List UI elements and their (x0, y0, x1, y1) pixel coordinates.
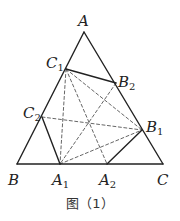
label-B1: B1 (145, 118, 163, 137)
dashed-segment-C1-B1 (66, 69, 142, 130)
label-A: A (76, 12, 89, 30)
solid-segment-C2-A1 (42, 117, 60, 164)
label-B: B (7, 171, 19, 189)
label-A2: A2 (97, 171, 116, 190)
figure-caption: 图（1） (66, 196, 113, 211)
label-A1: A1 (50, 171, 69, 190)
solid-segments (17, 32, 163, 164)
dashed-segment-C1-A2 (66, 69, 107, 164)
label-C1: C1 (46, 54, 64, 73)
solid-segment-C1-B2 (66, 69, 116, 83)
solid-segment-A2-B1 (107, 130, 142, 164)
label-B2: B2 (117, 73, 135, 92)
solid-segment-C-A (84, 32, 163, 164)
triangle-diagram: A B C A1 A2 B1 B2 C1 C2 图（1） (0, 0, 180, 221)
dashed-segment-C1-A1 (60, 69, 66, 164)
label-C2: C2 (23, 104, 41, 123)
label-C: C (157, 171, 169, 189)
dashed-segment-C2-B1 (42, 117, 142, 130)
dashed-segment-B2-A1 (60, 83, 116, 164)
